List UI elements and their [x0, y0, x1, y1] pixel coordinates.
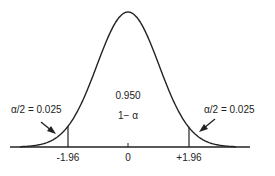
normal-curve-chart [0, 0, 275, 176]
right-arrow-icon [199, 119, 215, 132]
tick-label-left: -1.96 [57, 152, 80, 163]
tick-label-center: 0 [125, 152, 131, 163]
center-area-formula: 1− α [118, 110, 138, 121]
left-tail-label: α/2 = 0.025 [11, 104, 62, 115]
right-tail-label: α/2 = 0.025 [204, 104, 255, 115]
tick-label-right: +1.96 [176, 152, 201, 163]
left-arrow-icon [41, 122, 56, 134]
center-area-value: 0.950 [115, 90, 140, 101]
